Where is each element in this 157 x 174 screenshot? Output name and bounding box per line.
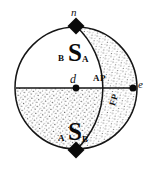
center-point-label: d (70, 73, 76, 85)
upper-sun-subscript-left: B (58, 53, 64, 63)
north-pole-label: n (71, 7, 77, 18)
upper-sun-symbol-group: S B A (68, 39, 82, 67)
east-point-marker (129, 84, 136, 91)
apogee-label: AP (93, 74, 106, 83)
east-point-label: e (138, 79, 143, 90)
upper-sun-symbol: S (68, 39, 82, 67)
lower-sun-subscript-left: A (58, 133, 65, 143)
lower-sun-subscript-right: B (82, 134, 88, 144)
upper-sun-subscript-right: A (82, 54, 89, 64)
diagram-canvas: n e d AP FP S B A S A B (0, 0, 157, 174)
lower-sun-symbol-group: S A B (68, 118, 82, 146)
lower-sun-symbol: S (68, 118, 82, 146)
diagram-svg (0, 0, 157, 174)
